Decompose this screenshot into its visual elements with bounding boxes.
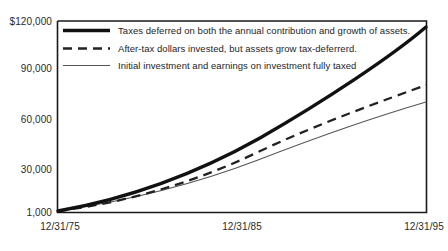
y-tick-label-90000: 90,000: [0, 63, 52, 74]
y-tick-label-1000: 1,000: [0, 207, 52, 218]
legend-label-after-tax: After-tax dollars invested, but assets g…: [118, 43, 357, 54]
legend-label-tax-deferred: Taxes deferred on both the annual contri…: [118, 25, 410, 36]
y-tick-label-30000: 30,000: [0, 164, 52, 175]
legend-label-fully-taxed: Initial investment and earnings on inves…: [118, 60, 356, 71]
y-tick-label-120000: $120,000: [0, 16, 52, 27]
x-tick-label-3: 12/31/95: [389, 221, 448, 232]
y-tick-label-60000: 60,000: [0, 114, 52, 125]
x-tick-label-2: 12/31/85: [207, 221, 277, 232]
x-tick-label-1: 12/31/75: [25, 221, 95, 232]
legend-swatches: [63, 31, 110, 66]
series-fully-taxed-line: [58, 102, 426, 211]
